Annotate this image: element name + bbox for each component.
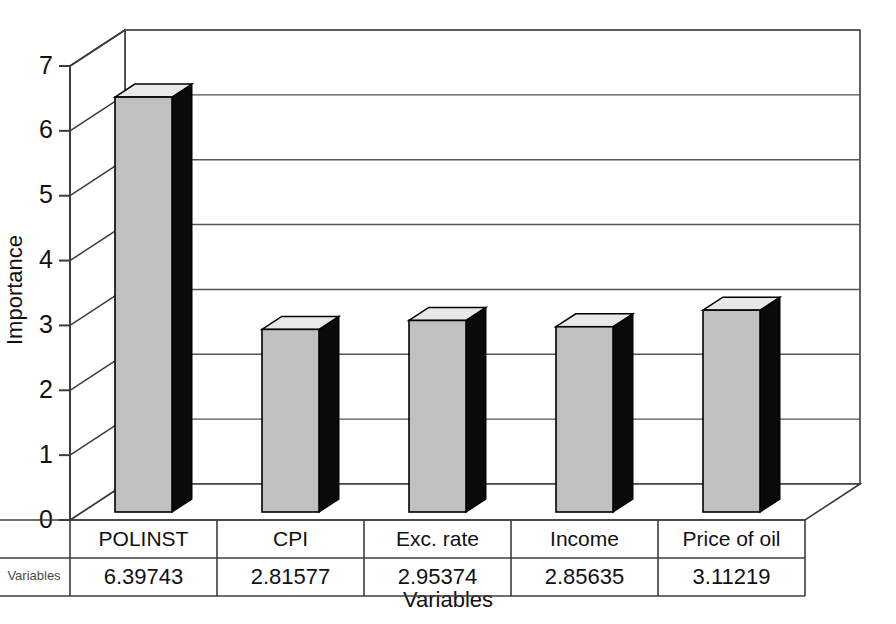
bar-side-face	[319, 316, 339, 512]
y-tick-label: 2	[39, 375, 53, 403]
table-value-cell: 2.85635	[545, 564, 625, 589]
y-tick-label: 5	[39, 180, 53, 208]
bar-4	[556, 314, 633, 512]
data-table: VariablesPOLINST6.39743CPI2.81577Exc. ra…	[0, 520, 805, 596]
x-axis-title: Variables	[403, 587, 493, 612]
y-tick-label: 7	[39, 51, 53, 79]
bar-front-face	[262, 329, 319, 512]
table-value-cell: 6.39743	[104, 564, 184, 589]
bar-side-face	[172, 84, 192, 512]
bar-front-face	[703, 310, 760, 512]
bar-1	[115, 84, 192, 512]
table-value-cell: 2.81577	[251, 564, 331, 589]
bar-chart-3d: 01234567 Importance Variables VariablesP…	[0, 0, 896, 624]
table-row-label: Variables	[7, 568, 61, 583]
bar-side-face	[466, 307, 486, 512]
chart-container: 01234567 Importance Variables VariablesP…	[0, 0, 896, 624]
bar-2	[262, 316, 339, 512]
y-tick-label: 4	[39, 245, 53, 273]
y-tick-group: 01234567	[39, 51, 70, 533]
y-axis-title: Importance	[2, 235, 27, 345]
table-header-cell: CPI	[273, 527, 308, 550]
table-value-cell: 3.11219	[693, 564, 771, 589]
y-tick-label: 6	[39, 115, 53, 143]
bar-front-face	[409, 320, 466, 512]
table-header-cell: Income	[550, 527, 619, 550]
table-header-cell: Exc. rate	[396, 527, 479, 550]
table-header-cell: Price of oil	[682, 527, 780, 550]
bar-side-face	[760, 297, 780, 512]
y-tick-label: 3	[39, 310, 53, 338]
table-header-cell: POLINST	[99, 527, 189, 550]
bar-side-face	[613, 314, 633, 512]
y-tick-label: 0	[39, 505, 53, 533]
bar-5	[703, 297, 780, 512]
bar-front-face	[556, 327, 613, 512]
y-tick-label: 1	[39, 440, 53, 468]
table-value-cell: 2.95374	[398, 564, 478, 589]
bar-3	[409, 307, 486, 512]
bar-front-face	[115, 97, 172, 512]
